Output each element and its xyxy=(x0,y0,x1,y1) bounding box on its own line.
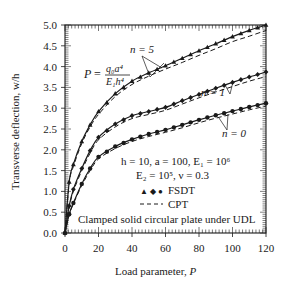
x-tick-label: 20 xyxy=(93,242,105,254)
diamond-marker xyxy=(155,107,160,112)
triangle-marker xyxy=(138,74,143,78)
y-tick-label: 2.0 xyxy=(43,144,57,156)
y-tick-label: 5.0 xyxy=(43,19,57,31)
circle-marker xyxy=(163,128,167,132)
circle-marker xyxy=(155,130,159,134)
diamond-marker xyxy=(180,98,185,103)
label-n5: n = 5 xyxy=(130,43,154,55)
diamond-marker xyxy=(138,111,143,116)
params-line-1: h = 10, a = 100, E₁ = 10⁶ xyxy=(121,155,231,167)
legend-cpt-label: CPT xyxy=(168,198,188,210)
circle-marker xyxy=(113,144,117,148)
formula-denominator: E₁h⁴ xyxy=(105,76,125,87)
y-tick-label: 4.0 xyxy=(43,61,57,73)
x-axis-title: Load parameter, P xyxy=(115,265,196,277)
label-n1: n = 1 xyxy=(201,86,225,98)
y-tick-label: 3.0 xyxy=(43,102,57,114)
legend-fsdt-markers: ▲ ◆ ● xyxy=(140,187,163,196)
x-tick-label: 0 xyxy=(62,242,68,254)
circle-marker xyxy=(214,113,218,117)
legend-fsdt-label: FSDT xyxy=(168,184,195,196)
y-tick-label: 1.5 xyxy=(43,165,57,177)
y-tick-label: 2.5 xyxy=(43,123,57,135)
x-tick-label: 60 xyxy=(160,242,172,254)
y-tick-label: 4.5 xyxy=(43,40,57,52)
diamond-marker xyxy=(247,74,252,79)
diamond-marker xyxy=(264,69,269,74)
circle-marker xyxy=(239,107,243,111)
circle-marker xyxy=(197,118,201,122)
circle-marker xyxy=(264,101,268,105)
circle-marker xyxy=(147,132,151,136)
fsdt-curve xyxy=(65,72,266,233)
x-tick-label: 40 xyxy=(127,242,139,254)
circle-marker xyxy=(255,103,259,107)
y-axis-title: Transverse deflection, w/h xyxy=(9,73,21,190)
formula-lhs: P xyxy=(83,67,92,81)
circle-marker xyxy=(230,109,234,113)
formula-numerator: q₀a⁴ xyxy=(106,63,123,74)
label-n0: n = 0 xyxy=(222,127,246,139)
x-tick-label: 80 xyxy=(194,242,206,254)
x-tick-label: 120 xyxy=(258,242,275,254)
diamond-marker xyxy=(146,109,151,114)
circle-marker xyxy=(180,123,184,127)
diamond-marker xyxy=(255,72,260,77)
diamond-marker xyxy=(163,105,168,110)
caption: Clamped solid circular plate under UDL xyxy=(78,213,256,225)
circle-marker xyxy=(205,115,209,119)
y-tick-label: 0.0 xyxy=(43,227,57,239)
y-tick-label: 1.0 xyxy=(43,185,57,197)
diamond-marker xyxy=(171,101,176,106)
circle-marker xyxy=(222,111,226,115)
diamond-marker xyxy=(188,95,193,100)
deflection-chart: 0204060801001200.00.51.01.52.02.53.03.54… xyxy=(0,0,293,292)
formula-eq: = xyxy=(94,67,101,81)
circle-marker xyxy=(247,105,251,109)
circle-marker xyxy=(188,120,192,124)
diamond-marker xyxy=(238,77,243,82)
circle-marker xyxy=(172,125,176,129)
leader-n5b xyxy=(142,56,162,68)
y-tick-label: 0.5 xyxy=(43,206,57,218)
x-tick-label: 100 xyxy=(224,242,241,254)
params-line-2: E₂ = 10⁵, ν = 0.3 xyxy=(136,169,210,181)
y-tick-label: 3.5 xyxy=(43,81,57,93)
diamond-marker xyxy=(130,113,135,118)
